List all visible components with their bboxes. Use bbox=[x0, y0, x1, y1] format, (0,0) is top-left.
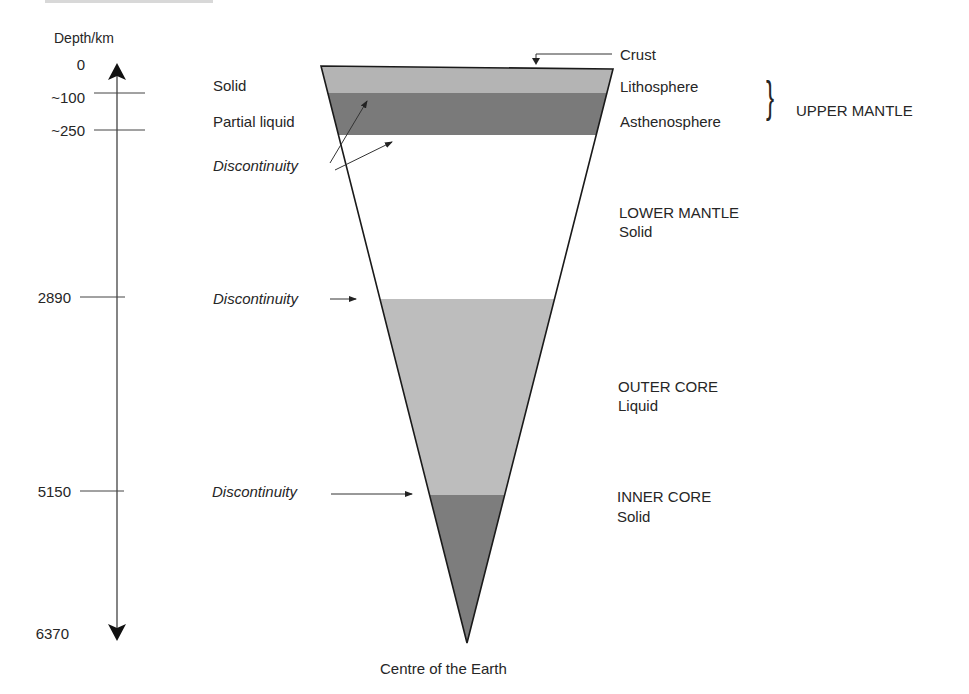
outer-core-label: OUTER CORE bbox=[618, 378, 718, 395]
lower-mantle-state: Solid bbox=[619, 223, 652, 240]
lithosphere-band bbox=[300, 60, 630, 93]
crust-label: Crust bbox=[620, 46, 656, 63]
tick-label-250: ~250 bbox=[25, 122, 85, 139]
inner-core-band bbox=[300, 495, 630, 655]
layer-bands bbox=[300, 60, 630, 655]
inner-core-label: INNER CORE bbox=[617, 488, 711, 505]
asthenosphere-label: Asthenosphere bbox=[620, 113, 721, 130]
solid-label: Solid bbox=[213, 77, 246, 94]
outer-core-state: Liquid bbox=[618, 397, 658, 414]
depth-axis bbox=[80, 63, 145, 641]
asthenosphere-band bbox=[300, 93, 630, 135]
tick-label-5150: 5150 bbox=[11, 483, 71, 500]
partial-liquid-label: Partial liquid bbox=[213, 113, 295, 130]
tick-label-100: ~100 bbox=[25, 89, 85, 106]
discontinuity-label-upper: Discontinuity bbox=[213, 157, 298, 174]
axis-title: Depth/km bbox=[54, 30, 114, 47]
centre-of-earth-label: Centre of the Earth bbox=[380, 660, 507, 677]
tick-label-2890: 2890 bbox=[11, 289, 71, 306]
discontinuity-label-2890: Discontinuity bbox=[213, 290, 298, 307]
lower-mantle-label: LOWER MANTLE bbox=[619, 204, 739, 221]
discontinuity-label-5150: Discontinuity bbox=[212, 483, 297, 500]
tick-label-0: 0 bbox=[25, 56, 85, 73]
lower-mantle-band bbox=[300, 135, 630, 299]
tick-label-6370: 6370 bbox=[9, 625, 69, 642]
lithosphere-label: Lithosphere bbox=[620, 78, 698, 95]
outer-core-band bbox=[300, 299, 630, 495]
inner-core-state: Solid bbox=[617, 508, 650, 525]
upper-mantle-label: UPPER MANTLE bbox=[796, 102, 913, 119]
brace-icon: } bbox=[766, 72, 774, 122]
